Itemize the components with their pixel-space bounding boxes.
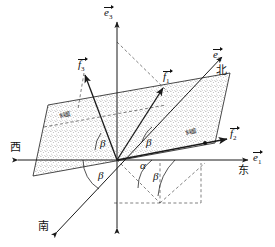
angle-label-alpha: α	[140, 160, 146, 171]
vector-label-f1: f1	[163, 70, 170, 85]
compass-label-west: 西	[10, 142, 21, 153]
axis-subscript-e2: 2	[218, 55, 222, 63]
angle-label-beta-lower-left: β	[98, 170, 103, 181]
axis-label-e3: e3	[104, 6, 112, 21]
figure-canvas	[0, 0, 275, 247]
inclined-plane	[33, 73, 230, 176]
angle-label-beta-upper-right: β	[146, 137, 151, 148]
axis-label-e1: e1	[253, 151, 261, 166]
geometry-figure: e3 e2 北 e1 东 西 南 f1 f2 f3 斜面 斜面 β β β α …	[0, 0, 275, 247]
compass-label-south: 南	[38, 221, 49, 232]
vector-subscript-f1: 1	[166, 77, 170, 85]
compass-label-north: 北	[216, 65, 227, 76]
vector-label-f3: f3	[78, 58, 85, 73]
compass-label-east: 东	[238, 165, 249, 176]
vector-subscript-f3: 3	[81, 65, 85, 73]
vector-label-f2: f2	[230, 127, 237, 142]
vector-subscript-f2: 2	[233, 134, 237, 142]
axis-label-e2: e2	[213, 48, 221, 63]
angle-label-beta-lower-right: β	[153, 171, 158, 182]
axis-subscript-e1: 1	[258, 158, 262, 166]
axis-subscript-e3: 3	[109, 13, 113, 21]
angle-label-beta-upper-left: β	[100, 138, 105, 149]
